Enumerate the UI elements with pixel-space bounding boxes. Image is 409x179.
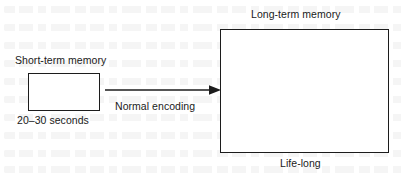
arrow-right-icon — [104, 80, 222, 100]
short-term-memory-duration: 20–30 seconds — [17, 114, 89, 127]
encoding-arrow-label: Normal encoding — [115, 100, 195, 113]
long-term-memory-box — [220, 29, 389, 153]
memory-encoding-diagram: Short-term memory 20–30 seconds Normal e… — [0, 0, 409, 179]
long-term-memory-duration: Life-long — [280, 157, 321, 170]
short-term-memory-box — [28, 73, 100, 111]
long-term-memory-label: Long-term memory — [251, 8, 341, 21]
short-term-memory-label: Short-term memory — [15, 54, 106, 67]
